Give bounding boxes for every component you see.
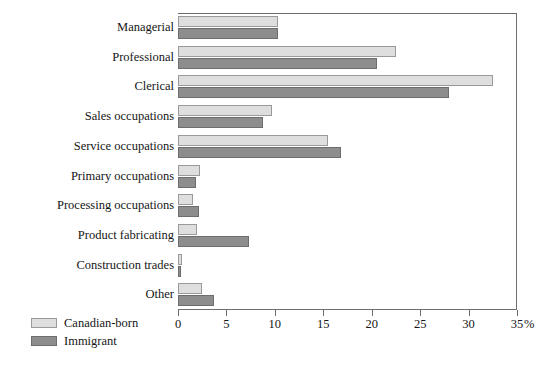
bar-immigrant xyxy=(178,266,181,277)
bar-canadian-born xyxy=(178,135,328,146)
chart-row: Professional xyxy=(0,43,554,73)
x-axis-unit-label: % xyxy=(524,317,534,332)
category-label: Professional xyxy=(112,43,174,73)
x-axis-tick xyxy=(226,310,227,316)
bar-immigrant xyxy=(178,28,278,39)
legend-label: Immigrant xyxy=(64,334,117,349)
chart-row: Product fabricating xyxy=(0,221,554,251)
category-label: Product fabricating xyxy=(78,221,174,251)
chart-row: Construction trades xyxy=(0,251,554,281)
bar-immigrant xyxy=(178,117,263,128)
chart-row: Primary occupations xyxy=(0,162,554,192)
bar-group xyxy=(178,191,554,221)
bar-group xyxy=(178,72,554,102)
x-axis-tick xyxy=(372,310,373,316)
bar-group xyxy=(178,280,554,310)
x-axis: 05101520253035 xyxy=(178,310,517,340)
chart-row: Other xyxy=(0,280,554,310)
chart-row: Sales occupations xyxy=(0,102,554,132)
bar-group xyxy=(178,102,554,132)
x-axis-tick xyxy=(517,310,518,316)
chart-rows: ManagerialProfessionalClericalSales occu… xyxy=(0,13,554,310)
bar-canadian-born xyxy=(178,75,493,86)
category-label: Sales occupations xyxy=(85,102,174,132)
legend-swatch-icon xyxy=(31,336,57,346)
category-label: Other xyxy=(146,280,174,310)
legend-label: Canadian-born xyxy=(64,316,138,331)
bar-canadian-born xyxy=(178,105,272,116)
bar-immigrant xyxy=(178,58,377,69)
bar-canadian-born xyxy=(178,46,396,57)
bar-canadian-born xyxy=(178,165,200,176)
legend-swatch-icon xyxy=(31,318,57,328)
bar-canadian-born xyxy=(178,194,193,205)
category-label: Processing occupations xyxy=(57,191,174,221)
x-axis-tick xyxy=(420,310,421,316)
bar-group xyxy=(178,221,554,251)
chart-row: Clerical xyxy=(0,72,554,102)
bar-group xyxy=(178,132,554,162)
category-label: Service occupations xyxy=(74,132,174,162)
x-axis-tick-label: 5 xyxy=(206,317,246,332)
x-axis-tick-label: 25 xyxy=(400,317,440,332)
legend-item[interactable]: Canadian-born xyxy=(31,315,138,331)
chart-row: Service occupations xyxy=(0,132,554,162)
bar-canadian-born xyxy=(178,224,197,235)
category-label: Managerial xyxy=(117,13,174,43)
x-axis-tick-label: 15 xyxy=(303,317,343,332)
category-label: Clerical xyxy=(134,72,174,102)
bar-canadian-born xyxy=(178,16,278,27)
x-axis-tick xyxy=(275,310,276,316)
bar-immigrant xyxy=(178,177,196,188)
bar-immigrant xyxy=(178,206,199,217)
x-axis-tick xyxy=(178,310,179,316)
bar-immigrant xyxy=(178,236,249,247)
bar-group xyxy=(178,251,554,281)
category-label: Construction trades xyxy=(76,251,174,281)
x-axis-tick-label: 0 xyxy=(158,317,198,332)
bar-immigrant xyxy=(178,147,341,158)
x-axis-tick-label: 20 xyxy=(352,317,392,332)
x-axis-tick-label: 30 xyxy=(449,317,489,332)
x-axis-tick-label: 10 xyxy=(255,317,295,332)
category-label: Primary occupations xyxy=(71,162,174,192)
bar-group xyxy=(178,43,554,73)
bar-immigrant xyxy=(178,87,449,98)
x-axis-tick xyxy=(469,310,470,316)
x-axis-tick xyxy=(323,310,324,316)
bar-canadian-born xyxy=(178,283,202,294)
chart-legend: Canadian-bornImmigrant xyxy=(31,315,138,351)
legend-item[interactable]: Immigrant xyxy=(31,333,138,349)
bar-chart: ManagerialProfessionalClericalSales occu… xyxy=(0,0,554,369)
bar-group xyxy=(178,162,554,192)
chart-row: Managerial xyxy=(0,13,554,43)
bar-canadian-born xyxy=(178,254,182,265)
bar-group xyxy=(178,13,554,43)
chart-row: Processing occupations xyxy=(0,191,554,221)
bar-immigrant xyxy=(178,295,214,306)
